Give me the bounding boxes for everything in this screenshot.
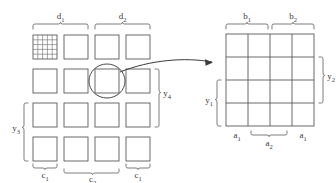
left-block-r4c2 — [64, 137, 88, 161]
left-block-r4c3 — [95, 137, 119, 161]
brace-c1-left — [33, 164, 57, 170]
brace-d1 — [33, 22, 88, 29]
label-y2: y2 — [327, 71, 335, 83]
brace-y2 — [319, 57, 325, 103]
left-block-r3c3 — [95, 103, 119, 127]
left-block-r2c1 — [33, 69, 57, 93]
left-block-r2c4 — [126, 69, 150, 93]
label-d1: d1 — [57, 11, 65, 23]
left-block-r2c2 — [64, 69, 88, 93]
left-block-r1c2 — [64, 35, 88, 59]
left-block-r1c3 — [95, 35, 119, 59]
brace-a2 — [251, 131, 287, 137]
label-a1-right: a1 — [299, 130, 306, 142]
left-block-r1c1 — [33, 35, 57, 59]
left-block-r3c1 — [33, 103, 57, 127]
label-b2: b2 — [289, 11, 297, 23]
brace-b2 — [272, 22, 314, 29]
label-c2: c2 — [89, 174, 96, 183]
left-block-r4c4 — [126, 137, 150, 161]
label-y1: y1 — [205, 95, 213, 107]
label-c1-right: c1 — [134, 170, 141, 182]
left-block-r1c4 — [126, 35, 150, 59]
diagram-canvas: d1 d2 c1 c2 c1 y3 y4 — [0, 0, 336, 183]
detail-subgrid — [33, 35, 57, 59]
left-block-r3c2 — [64, 103, 88, 127]
brace-c1-right — [126, 164, 150, 170]
label-y3: y3 — [12, 123, 20, 135]
label-a2: a2 — [265, 138, 272, 150]
label-d2: d2 — [119, 11, 127, 23]
left-block-r3c4 — [126, 103, 150, 127]
left-block-r2c3 — [95, 69, 119, 93]
label-c1-left: c1 — [41, 170, 48, 182]
connector-arrow — [120, 59, 213, 72]
brace-y3 — [22, 103, 28, 161]
right-panel: b1 b2 a1 a2 a1 y1 y2 — [205, 11, 335, 150]
brace-y1 — [215, 80, 221, 126]
left-panel: d1 d2 c1 c2 c1 y3 y4 — [12, 11, 172, 183]
brace-b1 — [226, 22, 268, 29]
diagram-svg: d1 d2 c1 c2 c1 y3 y4 — [0, 0, 336, 183]
brace-d2 — [95, 22, 150, 29]
label-b1: b1 — [243, 11, 251, 23]
brace-y4 — [155, 69, 161, 127]
label-a1-left: a1 — [233, 130, 240, 142]
connector-arrowhead — [205, 59, 213, 66]
left-block-r4c1 — [33, 137, 57, 161]
label-y4: y4 — [163, 88, 172, 100]
connector-arrow-path — [120, 60, 212, 72]
